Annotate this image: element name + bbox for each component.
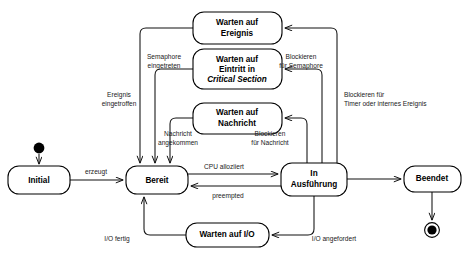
state-warten-auf-io-label: Warten auf I/O	[199, 230, 255, 239]
final-pseudostate-dot-icon	[427, 225, 436, 234]
initial-pseudostate-icon	[34, 143, 45, 154]
edge-ausfuehrung-to-warten-io	[272, 196, 314, 235]
label-io-angefordert: I/O angefordert	[312, 235, 357, 243]
state-warten-auf-ereignis-label-line2: Ereignis	[221, 29, 254, 38]
edge-critical-section-to-bereit	[155, 69, 193, 163]
label-preempted: preempted	[212, 192, 244, 200]
label-blockieren-timer-line2: Timer oder internes Ereignis	[344, 100, 427, 108]
label-ereignis-eingetroffen-line1: Ereignis	[107, 91, 132, 99]
state-warten-auf-io[interactable]: Warten auf I/O	[186, 223, 269, 247]
state-beendet-label: Beendet	[416, 174, 449, 183]
state-bereit[interactable]: Bereit	[126, 166, 188, 194]
label-blockieren-fuer-semaphore-line1: Blockieren	[286, 53, 317, 60]
edge-ausfuehrung-to-critical-section	[285, 69, 322, 163]
label-semaphore-eingetreten-line1: Semaphore	[147, 53, 181, 61]
label-blockieren-fuer-nachricht-line2: für Nachricht	[251, 139, 289, 146]
state-critical-section-label-line3: Critical Section	[207, 75, 267, 84]
label-semaphore-eingetreten-line2: eingetreten	[148, 62, 181, 70]
state-warten-auf-nachricht-label-line1: Warten auf	[216, 108, 258, 117]
label-blockieren-fuer-semaphore-line2: für Semaphore	[279, 62, 323, 70]
edge-ausfuehrung-to-warten-ereignis	[285, 28, 337, 163]
state-beendet[interactable]: Beendet	[404, 166, 461, 192]
label-nachricht-angekommen-line1: Nachricht	[164, 130, 192, 137]
uml-state-diagram: Initial Bereit In Ausführung Beendet	[0, 0, 469, 256]
state-warten-auf-eintritt-critical-section[interactable]: Warten auf Eintritt in Critical Section	[193, 49, 282, 89]
state-warten-auf-ereignis-label-line1: Warten auf	[216, 18, 258, 27]
state-warten-auf-nachricht-label-line2: Nachricht	[218, 119, 256, 128]
state-diagram-canvas: Initial Bereit In Ausführung Beendet	[0, 0, 469, 256]
label-blockieren-fuer-nachricht-line1: Blockieren	[255, 130, 286, 137]
state-nodes: Initial Bereit In Ausführung Beendet	[8, 12, 461, 247]
state-in-ausfuehrung-label-line1: In	[310, 169, 317, 178]
label-nachricht-angekommen-line2: angekommen	[158, 139, 198, 147]
state-in-ausfuehrung-label-line2: Ausführung	[291, 180, 337, 189]
label-cpu-alloziiert: CPU alloziiert	[204, 163, 244, 170]
state-critical-section-label-line1: Warten auf	[216, 55, 258, 64]
state-critical-section-label-line2: Eintritt in	[219, 65, 255, 74]
state-in-ausfuehrung[interactable]: In Ausführung	[281, 163, 347, 196]
label-blockieren-timer-line1: Blockieren für	[344, 91, 385, 98]
label-io-fertig: I/O fertig	[104, 235, 130, 243]
state-bereit-label: Bereit	[145, 176, 168, 185]
state-initial[interactable]: Initial	[8, 166, 70, 194]
label-ereignis-eingetroffen-line2: eingetroffen	[102, 100, 137, 108]
state-initial-label: Initial	[28, 176, 49, 185]
edge-warten-io-to-bereit	[144, 197, 186, 235]
label-erzeugt: erzeugt	[85, 168, 107, 176]
state-warten-auf-ereignis[interactable]: Warten auf Ereignis	[193, 12, 282, 44]
